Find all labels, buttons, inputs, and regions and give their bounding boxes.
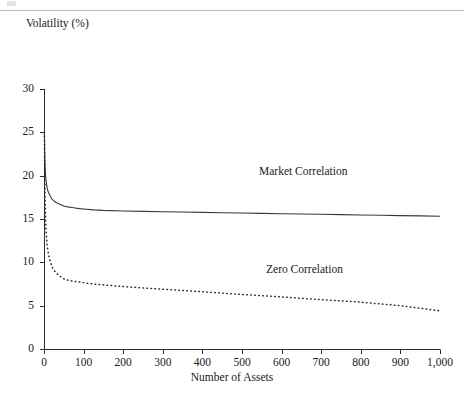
y-tick-label: 30 xyxy=(8,83,34,95)
plot-area xyxy=(0,0,464,393)
volatility-chart: Volatility (%) Market Correlation Zero C… xyxy=(0,0,464,393)
y-tick-label: 10 xyxy=(8,256,34,268)
y-tick-label: 5 xyxy=(8,300,34,312)
y-tick-label: 25 xyxy=(8,126,34,138)
x-tick-label: 1,000 xyxy=(415,357,464,369)
y-tick-label: 15 xyxy=(8,213,34,225)
y-tick-label: 20 xyxy=(8,170,34,182)
series-label-market-correlation: Market Correlation xyxy=(259,165,347,177)
series-line-market-correlation xyxy=(44,132,440,216)
series-label-zero-correlation: Zero Correlation xyxy=(266,263,343,275)
x-axis-title: Number of Assets xyxy=(0,371,464,383)
y-tick-label: 0 xyxy=(8,343,34,355)
series-line-zero-correlation xyxy=(44,132,440,311)
